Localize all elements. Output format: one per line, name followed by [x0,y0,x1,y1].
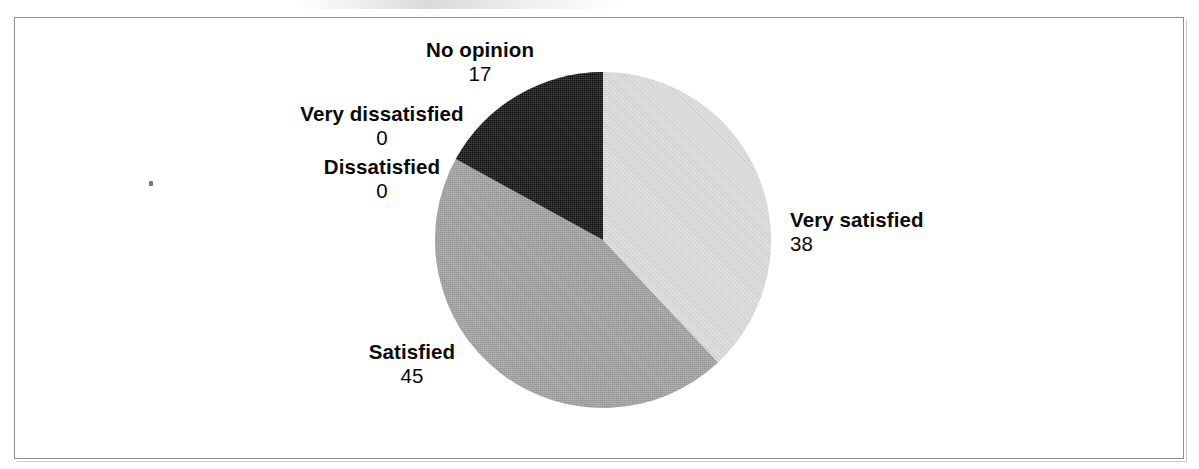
scan-smudge [300,0,620,9]
pie-label-very-dissatisfied-name: Very dissatisfied [252,102,512,126]
pie-label-dissatisfied: Dissatisfied 0 [252,155,512,203]
scan-speck-artifact [149,181,153,186]
pie-label-no-opinion-value: 17 [370,62,590,86]
pie-label-very-satisfied-name: Very satisfied [790,208,1020,232]
pie-label-very-dissatisfied-value: 0 [252,126,512,150]
pie-label-very-satisfied: Very satisfied 38 [790,208,1020,256]
pie-label-dissatisfied-value: 0 [252,179,512,203]
pie-label-very-dissatisfied: Very dissatisfied 0 [252,102,512,150]
pie-label-no-opinion-name: No opinion [370,38,590,62]
pie-label-satisfied: Satisfied 45 [312,340,512,388]
chart-page: No opinion 17 Very dissatisfied 0 Dissat… [0,0,1199,469]
pie-label-dissatisfied-name: Dissatisfied [252,155,512,179]
pie-label-very-satisfied-value: 38 [790,232,1020,256]
pie-label-no-opinion: No opinion 17 [370,38,590,86]
pie-label-satisfied-value: 45 [312,364,512,388]
pie-label-satisfied-name: Satisfied [312,340,512,364]
